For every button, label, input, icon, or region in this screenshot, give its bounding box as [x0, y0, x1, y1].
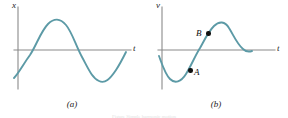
data-point-b-label: B — [196, 29, 202, 38]
data-point-b-marker — [206, 31, 211, 36]
plot-area-a — [0, 0, 144, 100]
panel-caption-b: (b) — [144, 100, 288, 109]
axis-label-y-a: x — [12, 1, 16, 10]
panel-caption-a: (a) — [0, 100, 144, 109]
chart-panel-a: x t (a) — [0, 0, 144, 118]
data-point-a-marker — [188, 68, 193, 73]
curve-position-a — [14, 20, 126, 82]
figure-footnote: Figure Simple harmonic motion — [0, 114, 288, 118]
axis-label-y-b: v — [156, 1, 160, 10]
plot-area-b — [144, 0, 288, 100]
data-point-a-label: A — [194, 68, 200, 77]
chart-panel-b: v t A B (b) — [144, 0, 288, 118]
figure-container: x t (a) v t A B (b) Figure Simple harmon… — [0, 0, 288, 118]
axis-label-x-b: t — [277, 44, 280, 53]
axis-label-x-a: t — [133, 44, 136, 53]
